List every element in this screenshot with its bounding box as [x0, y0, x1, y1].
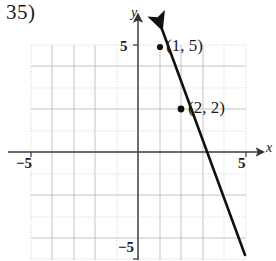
point-annotation-1-5: (1, 5) [166, 37, 203, 54]
coordinate-plane-graph [0, 0, 276, 261]
data-point-2-2 [178, 106, 185, 113]
point-annotation-2-2: (2, 2) [188, 99, 225, 116]
x-axis-tick-label-positive: 5 [238, 156, 246, 171]
y-axis-name-label: y [131, 6, 137, 20]
y-axis-tick-label-negative: −5 [118, 240, 134, 255]
x-axis-tick-label-negative: −5 [16, 156, 32, 171]
y-axis-tick-label-positive: 5 [120, 39, 128, 54]
data-point-1-5 [157, 44, 163, 50]
worksheet-figure: 35) [0, 0, 276, 261]
x-axis-name-label: x [266, 141, 272, 155]
plotted-line [159, 21, 245, 255]
